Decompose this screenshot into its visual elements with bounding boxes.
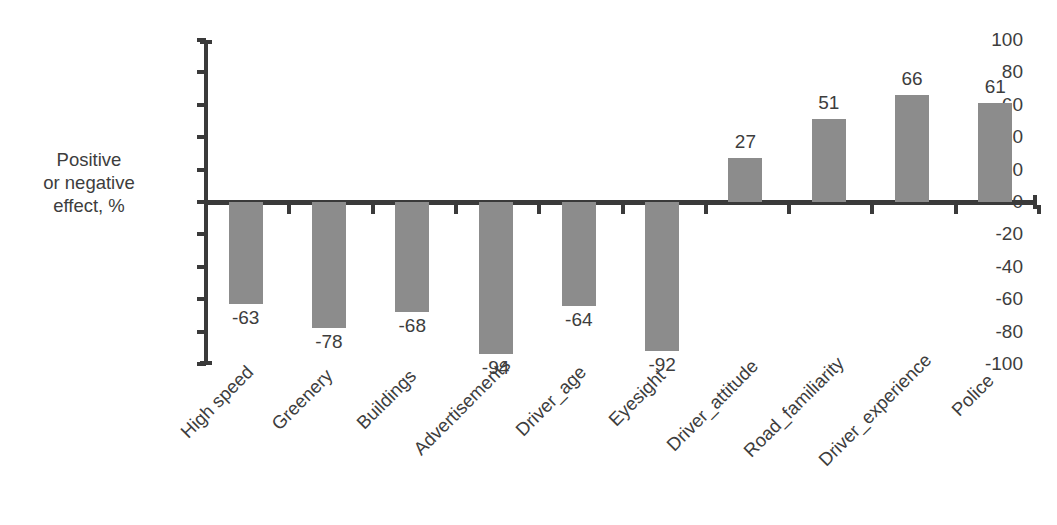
bar-value-label: -68 [380, 316, 444, 336]
bar-value-label: 27 [713, 132, 777, 152]
bar[interactable] [312, 202, 346, 328]
x-axis-category-labels: High speedGreeneryBuildingsAdvertisement… [204, 371, 1057, 525]
y-axis-title-line-1: Positive [14, 148, 164, 171]
x-tick-mark [1037, 205, 1041, 214]
y-axis-title: Positive or negative effect, % [14, 148, 164, 217]
bar[interactable] [479, 202, 513, 354]
plot-area: 100806040200-20-40-60-80-100 -63-78-68-9… [204, 40, 1037, 365]
x-axis-category-label: High speed [177, 362, 257, 442]
bar[interactable] [728, 158, 762, 202]
chart-page: Positive or negative effect, % 100806040… [0, 0, 1057, 525]
bar-value-label: -64 [547, 310, 611, 330]
x-axis-category-label: Buildings [353, 365, 420, 432]
bar[interactable] [229, 202, 263, 304]
bar[interactable] [395, 202, 429, 312]
y-axis-title-line-2: or negative [14, 171, 164, 194]
bar[interactable] [645, 202, 679, 351]
bar-value-label: 61 [963, 77, 1027, 97]
y-axis-title-line-3: effect, % [14, 194, 164, 217]
bar[interactable] [562, 202, 596, 306]
bar-value-label: 51 [797, 93, 861, 113]
bar[interactable] [895, 95, 929, 202]
x-axis-category-label: Eyesight [605, 366, 669, 430]
bar-value-label: -63 [214, 308, 278, 328]
x-axis-category-label: Driver_age [512, 362, 590, 440]
x-axis-category-label: Advertisements [410, 355, 514, 459]
x-axis-category-label: Greenery [268, 365, 337, 434]
bar[interactable] [812, 119, 846, 202]
bar-series: -63-78-68-94-64-9227516661 [204, 40, 1037, 365]
bar-value-label: 66 [880, 69, 944, 89]
bar[interactable] [978, 103, 1012, 202]
bar-value-label: -78 [297, 332, 361, 352]
x-axis-category-label: Police [948, 371, 998, 421]
